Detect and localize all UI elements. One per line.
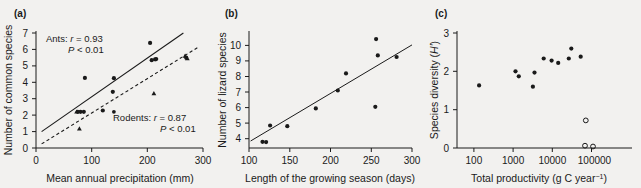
panel-c-xlabel: Total productivity (g C year−1): [471, 172, 607, 184]
xtick-3: 250: [363, 155, 380, 166]
xtick-3: 100000: [578, 155, 612, 166]
ytick-3: 7: [235, 87, 241, 98]
panel-b-plot: 100 150 200 250 300 4 5 6 7 8 9 10 Lengt…: [215, 0, 427, 188]
ytick-5: 9: [235, 55, 241, 66]
ytick-2: 2: [22, 110, 28, 121]
panel-a-ylabel: Number of common species: [2, 25, 14, 156]
ytick-1: 1: [22, 126, 28, 137]
panel-c-ylabel: Species diversity (H′): [428, 41, 440, 139]
panel-b-xtick-labels: 100 150 200 250 300: [241, 155, 421, 166]
panel-a-plot: 0 100 200 300 0 1 2 3 4 5 6 7 Mean annua…: [0, 0, 215, 188]
panel-b-axes: [245, 31, 412, 152]
panel-c-axes: [453, 31, 632, 152]
ants-stat-line1: Ants: r = 0.93: [46, 33, 103, 44]
panel-b-ylabel: Number of lizard species: [216, 32, 228, 148]
rodents-stat-line1: Rodents: r = 0.87: [113, 112, 186, 123]
panel-a-annotations: Ants: r = 0.93 P < 0.01 Rodents: r = 0.8…: [46, 33, 196, 134]
lizard-fit-line: [251, 45, 412, 141]
xtick-2: 200: [139, 155, 156, 166]
panel-c: (c) 100 1000 10000 100000: [427, 0, 641, 188]
ytick-4: 8: [235, 71, 241, 82]
xtick-2: 200: [322, 155, 339, 166]
figure-panel-group: (a) 0: [0, 0, 641, 188]
panel-b-ytick-labels: 4 5 6 7 8 9 10: [230, 40, 242, 144]
lizard-data-points: [260, 37, 398, 144]
ytick-7: 7: [22, 28, 28, 39]
ytick-0: 0: [22, 143, 28, 154]
panel-c-xtick-labels: 100 1000 10000 100000: [466, 155, 612, 166]
ytick-0: 4: [235, 133, 241, 144]
xtick-0: 100: [466, 155, 483, 166]
xtick-1: 150: [281, 155, 298, 166]
xtick-1: 100: [83, 155, 100, 166]
xtick-3: 300: [195, 155, 212, 166]
rodents-stat-line2: P < 0.01: [160, 123, 196, 134]
ytick-1: 1: [443, 104, 449, 115]
xtick-1: 1000: [502, 155, 525, 166]
xtick-4: 300: [404, 155, 421, 166]
ytick-1: 5: [235, 118, 241, 129]
panel-a-ytick-labels: 0 1 2 3 4 5 6 7: [22, 28, 28, 154]
ytick-6: 6: [22, 44, 28, 55]
closed-site-data-points: [477, 47, 583, 89]
xtick-0: 0: [33, 155, 39, 166]
ytick-4: 4: [22, 77, 28, 88]
ytick-0: 0: [443, 143, 449, 154]
xtick-2: 10000: [538, 155, 566, 166]
panel-c-plot: 100 1000 10000 100000 0 1 2 3 Total prod…: [427, 0, 641, 188]
ytick-2: 2: [443, 66, 449, 77]
panel-a-xtick-labels: 0 100 200 300: [33, 155, 212, 166]
panel-b: (b) 100 150: [215, 0, 427, 188]
ants-stat-line2: P < 0.01: [68, 44, 104, 55]
xtick-0: 100: [241, 155, 258, 166]
panel-a-xlabel: Mean annual precipitation (mm): [46, 172, 194, 184]
panel-a: (a) 0: [0, 0, 215, 188]
ytick-5: 5: [22, 60, 28, 71]
panel-c-ytick-labels: 0 1 2 3: [443, 28, 449, 154]
ytick-3: 3: [443, 28, 449, 39]
ytick-2: 6: [235, 102, 241, 113]
panel-b-xlabel: Length of the growing season (days): [245, 172, 415, 184]
ytick-6: 10: [230, 40, 242, 51]
open-site-data-points: [583, 118, 596, 149]
ytick-3: 3: [22, 93, 28, 104]
